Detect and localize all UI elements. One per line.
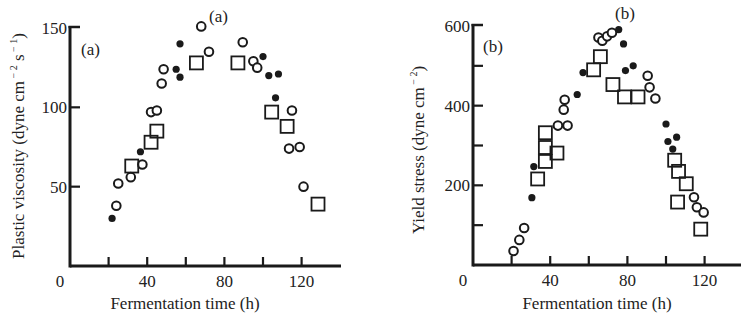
axes: 0408012050100150	[42, 19, 342, 291]
x-tick-label: 120	[289, 272, 315, 291]
filled-circle-point	[265, 72, 272, 79]
y-tick-label: 50	[50, 178, 67, 197]
open-circle-point	[159, 65, 168, 74]
filled-circle-point	[615, 26, 622, 33]
open-square-point	[190, 56, 203, 69]
filled-circle-point	[662, 120, 669, 127]
open-square-point	[231, 56, 244, 69]
x-tick-label: 80	[216, 272, 233, 291]
y-tick-label: 100	[42, 98, 68, 117]
filled-circle-point	[173, 66, 180, 73]
open-circle-point	[560, 95, 569, 104]
y-tick-label: 200	[445, 176, 471, 195]
open-circle-point	[520, 224, 529, 233]
open-square-point	[671, 196, 684, 209]
filled-circle-point	[630, 62, 637, 69]
plastic-viscosity-chart: Plastic viscosity (dyne cm − 2 s − 1) Fe…	[8, 7, 341, 313]
filled-circle-point	[579, 69, 586, 76]
data-points	[108, 22, 324, 222]
open-circle-point	[253, 63, 262, 72]
filled-circle-point	[622, 67, 629, 74]
axes: 04080120200400600	[445, 17, 742, 290]
yield-stress-chart: Yield stress (dyne cm − 2) Fermentation …	[408, 4, 741, 313]
y-tick-label: 400	[445, 97, 471, 116]
open-circle-point	[112, 201, 121, 210]
filled-circle-point	[574, 91, 581, 98]
open-circle-point	[153, 106, 162, 115]
y-axis-title: Yield stress (dyne cm − 2)	[408, 66, 428, 234]
filled-circle-point	[108, 215, 115, 222]
x-tick-label: 120	[692, 271, 718, 290]
panel-label-top: (a)	[209, 7, 228, 26]
open-circle-point	[285, 144, 294, 153]
x-tick-label: 0	[56, 272, 65, 291]
open-circle-point	[651, 94, 660, 103]
x-tick-label: 40	[139, 272, 156, 291]
open-circle-point	[138, 160, 147, 169]
open-circle-point	[238, 38, 247, 47]
open-circle-point	[643, 71, 652, 80]
open-circle-point	[563, 121, 572, 130]
data-points	[509, 26, 708, 255]
panel-label-inner: (a)	[81, 40, 100, 59]
x-axis-title: Fermentation time (h)	[522, 294, 671, 313]
open-circle-point	[197, 22, 206, 31]
y-tick-label: 150	[42, 19, 68, 38]
open-circle-point	[559, 105, 568, 114]
open-square-point	[606, 78, 619, 91]
x-tick-label: 40	[542, 271, 559, 290]
y-axis-title: Plastic viscosity (dyne cm − 2 s − 1)	[8, 33, 28, 259]
filled-circle-point	[669, 145, 676, 152]
open-circle-point	[295, 143, 304, 152]
filled-circle-point	[530, 163, 537, 170]
open-circle-point	[205, 48, 214, 57]
open-circle-point	[645, 83, 654, 92]
filled-circle-point	[259, 53, 266, 60]
filled-circle-point	[275, 70, 282, 77]
open-square-point	[539, 126, 552, 139]
open-circle-point	[114, 179, 123, 188]
panel-label-inner: (b)	[483, 37, 503, 56]
open-circle-point	[509, 247, 518, 256]
open-circle-point	[515, 236, 524, 245]
open-circle-point	[690, 193, 699, 202]
open-square-point	[632, 90, 645, 103]
x-axis-title: Fermentation time (h)	[110, 294, 259, 313]
filled-circle-point	[664, 138, 671, 145]
open-square-point	[125, 160, 138, 173]
filled-circle-point	[176, 74, 183, 81]
open-circle-point	[126, 173, 135, 182]
figure: Plastic viscosity (dyne cm − 2 s − 1) Fe…	[0, 0, 751, 324]
open-square-point	[618, 90, 631, 103]
filled-circle-point	[673, 134, 680, 141]
filled-circle-point	[272, 94, 279, 101]
open-square-point	[281, 120, 294, 133]
filled-circle-point	[176, 40, 183, 47]
open-circle-point	[554, 121, 563, 130]
y-tick-label: 600	[445, 17, 471, 36]
x-tick-label: 80	[619, 271, 636, 290]
x-tick-label: 0	[459, 271, 468, 290]
filled-circle-point	[620, 40, 627, 47]
open-square-point	[265, 106, 278, 119]
open-square-point	[587, 63, 600, 76]
open-circle-point	[288, 106, 297, 115]
open-square-point	[694, 223, 707, 236]
open-square-point	[680, 177, 693, 190]
open-circle-point	[699, 208, 708, 217]
open-square-point	[312, 198, 325, 211]
open-circle-point	[608, 28, 617, 37]
open-square-point	[531, 172, 544, 185]
open-circle-point	[157, 79, 166, 88]
filled-circle-point	[137, 148, 144, 155]
filled-circle-point	[528, 194, 535, 201]
panel-label-top: (b)	[615, 4, 635, 23]
open-circle-point	[299, 182, 308, 191]
open-square-point	[594, 50, 607, 63]
